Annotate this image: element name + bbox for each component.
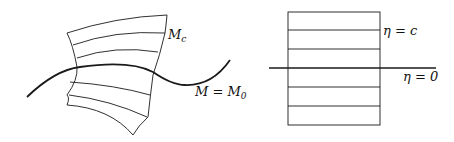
label-mc-sub: c	[181, 34, 186, 44]
label-eta-0: η = 0	[403, 70, 438, 83]
label-mc-base: M	[168, 27, 181, 42]
label-m-rhs: M	[227, 84, 240, 99]
label-eta-c: η = c	[383, 24, 417, 37]
patch-line-2	[77, 50, 158, 58]
patch-line-3	[70, 82, 150, 95]
label-eq: =	[208, 84, 227, 99]
label-mc: Mc	[168, 28, 186, 44]
curved-patch	[67, 15, 167, 135]
patch-line-1	[73, 33, 165, 46]
label-m-eq-m0: M = M0	[195, 85, 247, 101]
diagram-canvas	[0, 0, 454, 142]
label-m-rhs-sub: 0	[241, 91, 247, 101]
patch-line-4	[69, 95, 147, 117]
label-m-lhs: M	[195, 84, 208, 99]
patch-outline	[67, 15, 167, 135]
